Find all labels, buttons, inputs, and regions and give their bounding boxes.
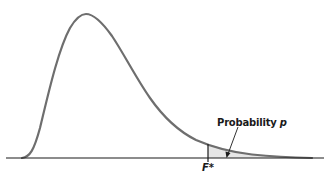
critical-value-label: F* bbox=[202, 162, 214, 173]
diagram-svg bbox=[0, 0, 336, 180]
probability-label: Probability p bbox=[217, 117, 287, 128]
density-curve bbox=[22, 14, 312, 158]
f-distribution-diagram: Probability p F* bbox=[0, 0, 336, 180]
annotation-arrow-line bbox=[228, 127, 238, 154]
probability-variable: p bbox=[280, 117, 287, 128]
probability-text: Probability bbox=[217, 117, 280, 128]
